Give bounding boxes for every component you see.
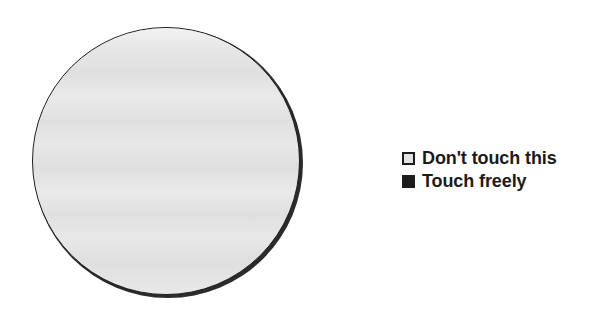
circle-shape-group: [30, 25, 306, 301]
legend-item-dont-touch-this: Don't touch this: [402, 147, 557, 170]
legend: Don't touch this Touch freely: [402, 147, 557, 193]
legend-swatch-light-icon: [402, 152, 415, 165]
legend-item-touch-freely: Touch freely: [402, 170, 557, 193]
circle-shape: [32, 27, 300, 295]
legend-item-label: Don't touch this: [422, 149, 557, 168]
circle-texture: [33, 28, 299, 294]
legend-item-label: Touch freely: [422, 172, 527, 191]
figure-canvas: Don't touch this Touch freely: [0, 0, 597, 332]
legend-swatch-dark-icon: [402, 175, 415, 188]
